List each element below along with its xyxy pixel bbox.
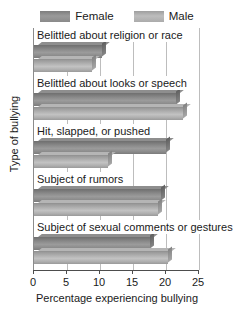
category-label: Subject of sexual comments or gestures [36, 220, 234, 234]
category-group-hit-slapped-pushed: Hit, slapped, or pushed [34, 124, 199, 172]
bar-top-face [38, 104, 191, 107]
x-tick-label-25: 25 [192, 276, 204, 288]
bar-male [34, 59, 92, 72]
category-label: Subject of rumors [36, 172, 125, 186]
bar-end-cap [150, 232, 154, 248]
category-group-looks-or-speech: Belittled about looks or speech [34, 76, 199, 124]
category-group-subject-of-rumors: Subject of rumors [34, 172, 199, 220]
x-tick-0 [33, 270, 34, 274]
x-tick-10 [99, 270, 100, 274]
bar-male [34, 107, 183, 120]
bar-end-cap [176, 88, 180, 104]
bar-top-face [38, 90, 184, 93]
bar-top-face [38, 56, 100, 59]
y-axis-title: Type of bullying [8, 64, 20, 204]
legend-entry-female: Female [40, 10, 113, 22]
x-axis-line [33, 270, 199, 271]
bar-end-cap [168, 246, 172, 262]
category-label: Belittled about religion or race [36, 28, 185, 42]
bar-male [34, 155, 108, 168]
legend-entry-male: Male [134, 10, 194, 22]
x-tick-label-10: 10 [93, 276, 105, 288]
bar-top-face [38, 248, 176, 251]
legend-swatch-female-icon [40, 11, 70, 22]
category-group-religion-or-race: Belittled about religion or race [34, 28, 199, 76]
bullying-bar-chart: Female Male Belittled about religion or … [0, 0, 234, 316]
category-label: Hit, slapped, or pushed [36, 124, 152, 138]
bar-top-face [38, 138, 174, 141]
x-tick-label-15: 15 [126, 276, 138, 288]
bar-top-face [38, 200, 166, 203]
category-label: Belittled about looks or speech [36, 76, 189, 90]
bar-top-face [38, 234, 158, 237]
plot-area: Belittled about religion or race Belittl… [33, 28, 199, 270]
bar-end-cap [166, 136, 170, 152]
legend-label-male: Male [169, 10, 194, 22]
legend-label-female: Female [75, 10, 113, 22]
legend-swatch-male-icon [134, 11, 164, 22]
bar-end-cap [108, 150, 112, 166]
x-tick-20 [165, 270, 166, 274]
bar-end-cap [183, 102, 187, 118]
bar-end-cap [102, 40, 106, 56]
bar-top-face [38, 42, 110, 45]
bar-male [34, 203, 158, 216]
x-tick-label-5: 5 [63, 276, 69, 288]
x-tick-15 [132, 270, 133, 274]
bar-end-cap [92, 54, 96, 70]
x-tick-label-0: 0 [30, 276, 36, 288]
bar-end-cap [158, 198, 162, 214]
x-tick-label-20: 20 [159, 276, 171, 288]
x-axis-title: Percentage experiencing bullying [0, 292, 234, 304]
chart-legend: Female Male [0, 6, 234, 26]
bar-male [34, 251, 168, 264]
x-tick-25 [198, 270, 199, 274]
bar-top-face [38, 186, 169, 189]
bar-top-face [38, 152, 116, 155]
x-tick-5 [66, 270, 67, 274]
category-group-sexual-comments-or-gestures: Subject of sexual comments or gestures [34, 220, 199, 268]
